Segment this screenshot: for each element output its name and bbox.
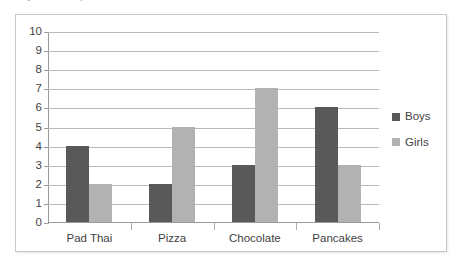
- y-axis-tick-mark: [44, 108, 48, 109]
- y-axis-tick-label: 5: [36, 122, 42, 134]
- bar-boys-chocolate: [232, 165, 255, 222]
- legend-label: Boys: [405, 111, 431, 123]
- bar-girls-chocolate: [255, 88, 278, 222]
- cropped-header-text: ecord your own responses in the table be…: [0, 0, 461, 9]
- y-axis-tick-mark: [44, 51, 48, 52]
- bar-boys-pad-thai: [66, 146, 89, 222]
- chart-legend: BoysGirls: [392, 111, 431, 162]
- y-axis-tick-mark: [44, 70, 48, 71]
- y-axis-tick-label: 6: [36, 103, 42, 115]
- y-axis-tick-label: 9: [36, 45, 42, 57]
- y-axis-tick-label: 2: [36, 179, 42, 191]
- bar-boys-pancakes: [315, 107, 338, 222]
- cropped-header-text-label: ecord your own responses in the table be…: [2, 0, 187, 1]
- y-axis-tick-label: 8: [36, 64, 42, 76]
- legend-swatch-girls-icon: [392, 138, 400, 146]
- gridline: [48, 51, 379, 52]
- gridline: [48, 70, 379, 71]
- bar-boys-pizza: [149, 184, 172, 222]
- bar-girls-pizza: [172, 127, 195, 223]
- x-axis-category-label: Pancakes: [312, 233, 363, 245]
- y-axis-tick-mark: [44, 223, 48, 224]
- y-axis-tick-label: 3: [36, 160, 42, 172]
- y-axis-tick-label: 4: [36, 141, 42, 153]
- legend-label: Girls: [405, 137, 429, 149]
- x-axis-category-label: Pad Thai: [66, 233, 112, 245]
- y-axis-tick-label: 10: [29, 26, 42, 38]
- x-axis-category-tick: [296, 223, 297, 230]
- y-axis-tick-mark: [44, 89, 48, 90]
- y-axis-tick-mark: [44, 128, 48, 129]
- y-axis-tick-mark: [44, 204, 48, 205]
- y-axis-tick-mark: [44, 32, 48, 33]
- legend-swatch-boys-icon: [392, 113, 400, 121]
- x-axis-category-tick: [131, 223, 132, 230]
- chart-frame: 012345678910 Pad ThaiPizzaChocolatePanca…: [15, 14, 447, 252]
- x-axis-category-label: Chocolate: [229, 233, 281, 245]
- x-axis-category-label: Pizza: [158, 233, 186, 245]
- y-axis-tick-mark: [44, 166, 48, 167]
- legend-item-boys[interactable]: Boys: [392, 111, 431, 123]
- gridline: [48, 89, 379, 90]
- legend-item-girls[interactable]: Girls: [392, 137, 431, 149]
- y-axis-tick-mark: [44, 185, 48, 186]
- x-axis-category-tick: [379, 223, 380, 230]
- bar-girls-pad-thai: [89, 184, 112, 222]
- y-axis-tick-label: 1: [36, 198, 42, 210]
- y-axis-tick-mark: [44, 147, 48, 148]
- bar-girls-pancakes: [338, 165, 361, 222]
- gridline: [48, 32, 379, 33]
- y-axis-tick-label: 0: [36, 217, 42, 229]
- y-axis-tick-label: 7: [36, 84, 42, 96]
- x-axis-category-tick: [214, 223, 215, 230]
- plot-area: 012345678910 Pad ThaiPizzaChocolatePanca…: [48, 32, 379, 223]
